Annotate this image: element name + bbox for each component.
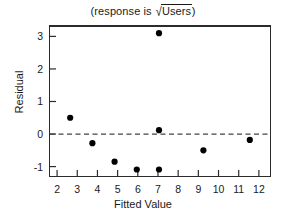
data-point (247, 137, 253, 143)
data-point (156, 30, 162, 36)
x-tick-label: 10 (213, 183, 225, 195)
data-point (67, 115, 73, 121)
x-tick-label: 5 (115, 183, 121, 195)
y-axis-label: Residual (13, 47, 25, 137)
x-tick-label: 9 (195, 183, 201, 195)
x-axis-label: Fitted Value (0, 198, 286, 210)
data-point (156, 127, 162, 133)
data-point (89, 140, 95, 146)
x-tick-label: 6 (135, 183, 141, 195)
y-tick-label: 3 (13, 30, 43, 42)
data-point-series (67, 30, 253, 173)
x-tick-label: 11 (233, 183, 244, 195)
y-axis-ticks (49, 36, 56, 166)
data-point (156, 166, 162, 172)
x-tick-label: 4 (95, 183, 101, 195)
data-point (134, 166, 140, 172)
x-tick-label: 12 (253, 183, 265, 195)
x-tick-label: 3 (74, 183, 80, 195)
data-point (111, 159, 117, 165)
x-tick-label: 8 (175, 183, 181, 195)
data-point (200, 147, 206, 153)
x-tick-label: 7 (155, 183, 161, 195)
y-tick-label: -1 (13, 161, 43, 173)
x-tick-label: 2 (54, 183, 60, 195)
residual-scatter-chart: (response is √Users) 3210-1 234567891011… (0, 0, 286, 222)
